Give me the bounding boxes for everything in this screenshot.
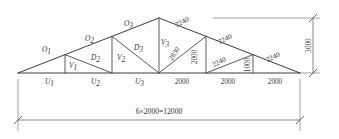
member-label-v2: V2 xyxy=(117,53,126,64)
truss-drawing-canvas: 3000 6×2000=12000 O1 O2 O3 U1 xyxy=(0,0,339,139)
member-label-v1: V1 xyxy=(69,61,77,72)
member-label-d2: D2 xyxy=(90,53,100,64)
bottom-panel-label-group: 2000 2000 2000 xyxy=(175,78,283,86)
member-dimension-label-group: 2240 2830 2000 2240 2240 1000 2240 xyxy=(167,15,282,72)
span-dimension-label: 6×2000=12000 xyxy=(136,107,183,116)
truss-diagram-root: 3000 6×2000=12000 O1 O2 O3 U1 xyxy=(0,0,339,139)
member-label-u1: U1 xyxy=(45,77,54,88)
vertical-web-group xyxy=(65,18,253,73)
span-dimension-group: 6×2000=12000 xyxy=(14,79,304,131)
dimension-label-vertical-1000: 1000 xyxy=(244,57,252,72)
member-label-d3: D3 xyxy=(133,43,143,54)
dimension-label-diagonal-2240: 2240 xyxy=(211,55,228,69)
member-label-u2: U2 xyxy=(91,77,100,88)
member-label-o2: O2 xyxy=(85,34,94,45)
member-label-group: O1 O2 O3 U1 U2 U3 V1 V2 xyxy=(42,19,170,88)
bottom-panel-label-4: 2000 xyxy=(175,78,190,86)
member-label-o1: O1 xyxy=(42,45,51,56)
member-label-v3: V3 xyxy=(161,38,170,49)
bottom-panel-label-5: 2000 xyxy=(221,78,236,86)
height-dimension-label: 3000 xyxy=(305,38,313,53)
bottom-panel-label-6: 2000 xyxy=(268,78,283,86)
dimension-label-vertical-2000-a: 2000 xyxy=(191,49,199,64)
member-label-u3: U3 xyxy=(135,77,144,88)
member-label-o3: O3 xyxy=(124,19,133,30)
